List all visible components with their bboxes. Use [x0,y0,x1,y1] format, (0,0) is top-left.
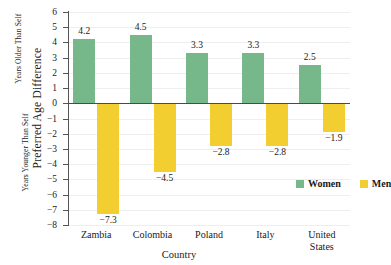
y-axis-tick: 4 [63,42,68,43]
y-axis-tick-label: 4 [52,37,57,47]
zero-baseline [68,103,350,104]
gridline [69,27,350,28]
y-axis-tick-label: −2 [47,129,57,139]
y-axis-tick-label: 6 [52,7,57,17]
y-axis-tick: −3 [63,149,68,150]
y-axis-tick: −4 [63,164,68,165]
legend-label-women: Women [308,178,341,189]
y-axis-tick-label: −6 [47,190,57,200]
bar-value-label: 4.5 [135,22,147,32]
legend-label-men: Men [372,178,391,189]
y-axis-tick: 6 [63,12,68,13]
y-axis-tick: −1 [63,119,68,120]
legend-swatch-women-icon [296,180,304,188]
x-category-label-italy: Italy [256,229,274,241]
bar-men-colombia [154,103,176,171]
y-axis-tick-label: −1 [47,114,57,124]
y-axis-tick-label: 1 [52,83,57,93]
bar-women-italy [242,53,264,103]
bar-women-poland [186,53,208,103]
bar-value-label: −4.5 [156,173,173,183]
y-axis-tick-label: 3 [52,53,57,63]
y-axis-tick-label: −4 [47,159,57,169]
y-axis-tick-label: −7 [47,205,57,215]
legend-swatch-men-icon [360,180,368,188]
chart-legend: Women Men [296,178,391,189]
bar-men-zambia [97,103,119,214]
y-axis-tick: 3 [63,58,68,59]
y-axis-title: Preferred Age Difference [31,13,43,203]
bar-women-united-states [299,65,321,103]
bar-value-label: −1.9 [325,133,342,143]
legend-item-women: Women [296,178,341,189]
y-axis-tick: 5 [63,27,68,28]
y-axis-tick-label: −8 [47,220,57,230]
x-category-label-poland: Poland [195,229,223,241]
y-axis-tick: 2 [63,73,68,74]
bar-men-italy [266,103,288,146]
y-axis-tick: −2 [63,134,68,135]
bar-value-label: 3.3 [191,40,203,50]
x-category-label-zambia: Zambia [81,229,112,241]
bar-value-label: −2.8 [269,147,286,157]
y-axis-lower-direction-label: Years Younger Than Self [21,108,30,198]
legend-item-men: Men [360,178,391,189]
x-axis-title: Country [0,249,358,260]
x-category-label-colombia: Colombia [133,229,172,241]
y-axis-tick: −8 [63,225,68,226]
y-axis-tick-label: 0 [52,98,57,108]
y-axis-tick-label: 2 [52,68,57,78]
y-axis-tick-label: 5 [52,22,57,32]
y-axis-tick-label: −5 [47,174,57,184]
gridline [69,12,350,13]
bar-men-united-states [323,103,345,132]
bar-women-zambia [73,39,95,103]
y-axis-tick: −6 [63,195,68,196]
bar-women-colombia [130,35,152,103]
bar-value-label: 4.2 [78,26,90,36]
bar-men-poland [210,103,232,146]
bar-value-label: 2.5 [304,52,316,62]
gridline [69,42,350,43]
bar-value-label: 3.3 [247,40,259,50]
bar-value-label: −2.8 [212,147,229,157]
y-axis-upper-direction-label: Years Older Than Self [14,10,23,88]
y-axis-tick-label: −3 [47,144,57,154]
bar-value-label: −7.3 [100,215,117,225]
y-axis-tick: −5 [63,179,68,180]
y-axis-tick: −7 [63,210,68,211]
plot-area: 6543210−1−2−3−4−5−6−7−8 4.2−7.34.5−4.53.… [68,12,350,225]
y-axis-tick: 1 [63,88,68,89]
